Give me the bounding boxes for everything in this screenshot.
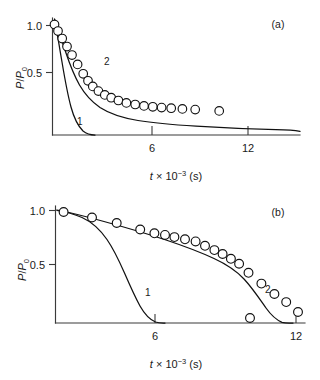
panel-b-x-title-exp: −3 [178,357,187,366]
panel-a-datapoints [50,20,223,115]
panel-b-datapoints [59,208,302,323]
panel-a-plot: 1 2 1.0 0.5 6 12 P/P0 t × 10−3 (s) (a) [0,0,320,190]
panel-b-y-axis-title: P/P0 [16,259,31,281]
panel-b-curve-label-1: 1 [145,287,151,298]
panel-b-xtick-label-1: 6 [152,330,158,342]
panel-b-curve-2 [57,210,293,323]
panel-b-x-title-unit: (s) [186,358,202,370]
panel-a-y-title-sub: 0 [20,67,29,71]
panel-b-xtick-label-2: 12 [290,330,302,342]
svg-text:P/P0: P/P0 [16,259,31,281]
panel-a-x-title-exp: −3 [178,169,187,178]
figure-container: 1 2 1.0 0.5 6 12 P/P0 t × 10−3 (s) (a) [0,0,320,380]
panel-a-xtick-label-2: 12 [242,142,254,154]
panel-a-x-title-mul: × 10 [153,170,178,182]
panel-b-curve-label-2: 2 [265,284,271,295]
panel-b-x-title-mul: × 10 [153,358,178,370]
panel-a-xtick-label-1: 6 [149,142,155,154]
panel-b-y-title-sub: 0 [22,259,31,263]
panel-b-curve-1 [57,211,165,324]
panel-a-ytick-label-2: 0.5 [27,67,42,79]
panel-a: 1 2 1.0 0.5 6 12 P/P0 t × 10−3 (s) (a) [0,0,320,190]
panel-a-label: (a) [272,18,285,30]
panel-b-ytick-label-1: 1.0 [30,205,45,217]
panel-b: 1 2 1.0 0.5 6 12 P/P0 t × 10−3 (s) (b) [0,186,320,380]
panel-a-x-title-unit: (s) [186,170,202,182]
panel-a-curve-label-2: 2 [104,56,110,67]
panel-b-x-axis-title: t × 10−3 (s) [150,357,202,370]
panel-b-plot: 1 2 1.0 0.5 6 12 P/P0 t × 10−3 (s) (b) [0,186,320,380]
panel-a-x-axis-title: t × 10−3 (s) [150,169,202,182]
panel-a-curve-2 [55,19,301,131]
panel-a-curve-label-1: 1 [77,116,83,127]
panel-a-ytick-label-1: 1.0 [27,20,42,32]
panel-b-label: (b) [272,206,285,218]
panel-b-ytick-label-2: 0.5 [30,259,45,271]
